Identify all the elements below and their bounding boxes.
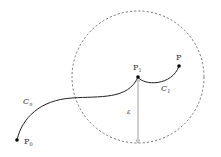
diagram-svg: P P1 P0 C1 Cn ε [0,0,221,157]
label-epsilon: ε [127,108,131,116]
point-p [177,64,181,68]
curve-c-n [17,77,138,140]
point-p-one [136,75,140,79]
label-c-one: C1 [161,84,170,94]
label-p-zero: P0 [24,137,33,147]
label-p-one: P1 [133,63,142,73]
curve-c-1 [138,66,179,83]
point-p-zero [15,138,19,142]
diagram-canvas: P P1 P0 C1 Cn ε [0,0,221,157]
label-c-n: Cn [23,97,32,107]
label-p: P [176,53,182,62]
